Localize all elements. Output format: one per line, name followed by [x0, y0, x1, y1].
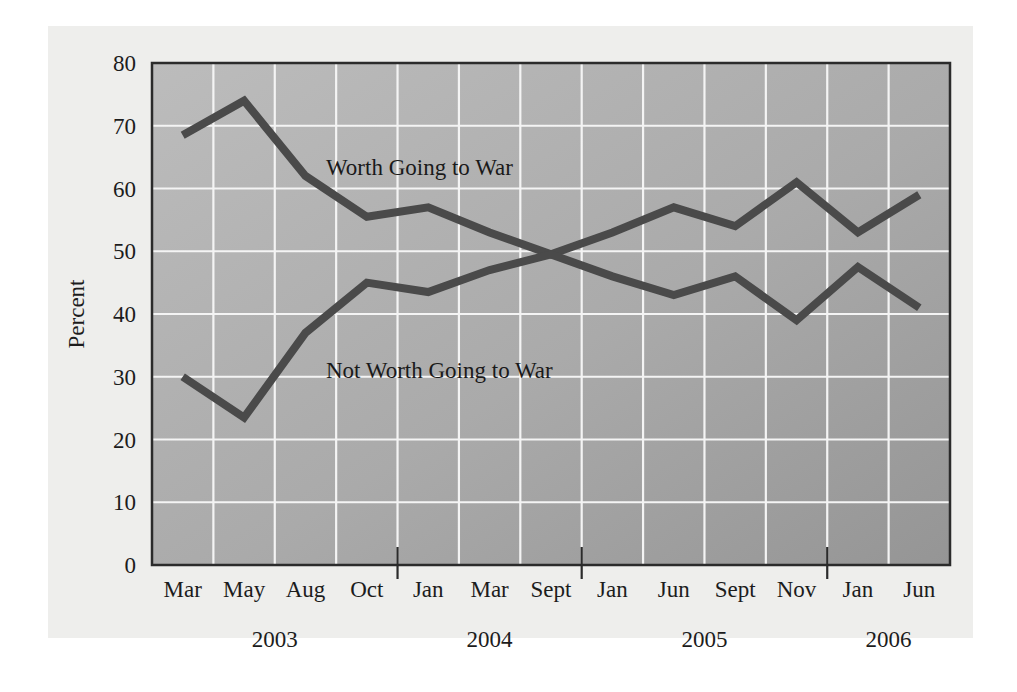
series-annotation-not-worth: Not Worth Going to War	[326, 358, 553, 383]
x-axis-year-label: 2003	[252, 627, 298, 652]
y-axis-tick-labels: 01020304050607080	[113, 51, 136, 578]
x-axis-month-label: Jun	[903, 577, 935, 602]
line-chart: 01020304050607080 Percent MarMayAugOctJa…	[0, 0, 1017, 692]
x-axis-year-labels: 2003200420052006	[252, 627, 912, 652]
x-axis-month-label: Oct	[350, 577, 384, 602]
series-annotation-worth: Worth Going to War	[326, 155, 513, 180]
x-axis-month-label: Jun	[658, 577, 690, 602]
y-axis-tick-label: 30	[113, 365, 136, 390]
x-axis-year-label: 2006	[866, 627, 912, 652]
y-axis-tick-label: 10	[113, 490, 136, 515]
x-axis-year-label: 2004	[467, 627, 514, 652]
y-axis-tick-label: 50	[113, 239, 136, 264]
x-axis-month-label: Sept	[531, 577, 573, 602]
y-axis-tick-label: 20	[113, 428, 136, 453]
y-axis-tick-label: 70	[113, 114, 136, 139]
x-axis-year-label: 2005	[681, 627, 727, 652]
x-axis-month-label: Mar	[164, 577, 203, 602]
x-axis-month-label: Nov	[777, 577, 817, 602]
x-axis-month-label: Aug	[286, 577, 326, 602]
y-axis-tick-label: 40	[113, 302, 136, 327]
y-axis-title: Percent	[64, 279, 89, 349]
y-axis-tick-label: 60	[113, 177, 136, 202]
y-axis-tick-label: 80	[113, 51, 136, 76]
x-axis-month-label: Jan	[843, 577, 874, 602]
y-axis-tick-label: 0	[125, 553, 137, 578]
x-axis-month-labels: MarMayAugOctJanMarSeptJanJunSeptNovJanJu…	[164, 577, 936, 602]
chart-figure: 01020304050607080 Percent MarMayAugOctJa…	[0, 0, 1017, 692]
x-axis-month-label: Mar	[470, 577, 509, 602]
x-axis-month-label: Jan	[413, 577, 444, 602]
x-axis-month-label: May	[223, 577, 266, 602]
x-axis-month-label: Jan	[597, 577, 628, 602]
x-axis-month-label: Sept	[715, 577, 757, 602]
